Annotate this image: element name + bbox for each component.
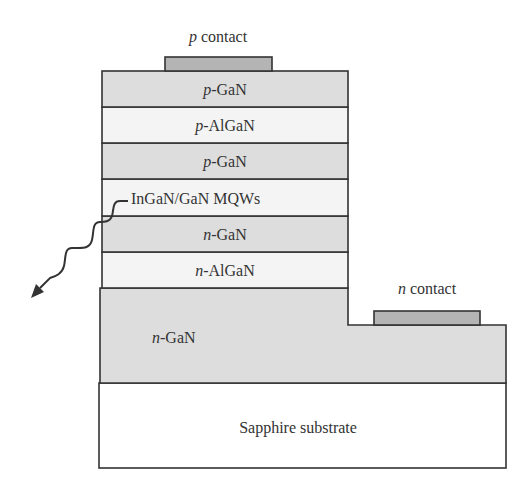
- layer-label-mqw: InGaN/GaN MQWs: [131, 190, 260, 207]
- layer-label-p-gan-top: p-GaN: [202, 81, 247, 99]
- led-structure-diagram: Sapphire substrate n-GaN n-AlGaN n-GaN I…: [0, 0, 530, 491]
- layer-label-n-gan-base: n-GaN: [152, 329, 196, 346]
- n-contact-pad: [374, 311, 480, 325]
- layer-label-n-algan: n-AlGaN: [195, 262, 255, 279]
- layer-label-p-algan: p-AlGaN: [194, 117, 255, 135]
- p-contact-label: p contact: [188, 28, 248, 46]
- n-contact-label: n contact: [398, 280, 457, 297]
- p-contact-pad: [165, 57, 272, 71]
- layer-label-p-gan: p-GaN: [202, 153, 247, 171]
- substrate-label: Sapphire substrate: [239, 419, 357, 437]
- layer-label-n-gan-upper: n-GaN: [203, 226, 247, 243]
